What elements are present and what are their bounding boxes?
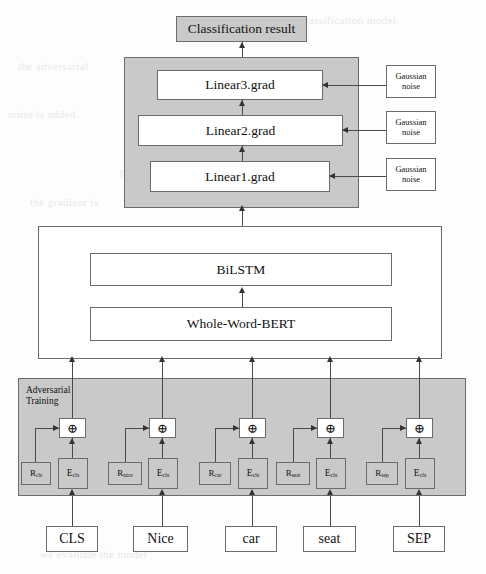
linear2-grad-label: Linear2.grad: [206, 123, 275, 138]
linear1-grad-label: Linear1.grad: [205, 169, 274, 184]
arrowhead-emb4-to-sum4: [327, 438, 333, 444]
token-node-4[interactable]: seat: [303, 526, 356, 552]
background-bleed-text: the adversarial: [18, 60, 88, 72]
perturbation-label-2: Rnice: [117, 468, 132, 478]
connector-pert2-riser: [125, 428, 126, 463]
sum-operator-symbol-4: ⊕: [325, 422, 336, 435]
gaussian-noise-node-1[interactable]: Gaussian noise: [386, 158, 436, 191]
arrowhead-encoder-to-grad: [239, 205, 245, 211]
token-node-5[interactable]: SEP: [393, 526, 445, 552]
connector-noise2-to-linear2: [343, 130, 386, 131]
gaussian-noise-node-3[interactable]: Gaussian noise: [386, 65, 436, 98]
arrowhead-bert-to-bilstm: [239, 287, 245, 293]
perturbation-node-3[interactable]: Rcar: [199, 462, 231, 485]
embedding-node-1[interactable]: Ecls: [58, 458, 88, 489]
arrowhead-token3-to-emb3: [249, 489, 255, 495]
gaussian-noise-label-3: Gaussian noise: [395, 72, 426, 91]
embedding-label-4: Ecls: [325, 468, 337, 479]
connector-token4-to-emb4: [330, 496, 331, 526]
token-label-1: CLS: [59, 531, 85, 547]
arrowhead-noise3-to-linear3: [322, 82, 328, 88]
arrowhead-linear1-to-linear2: [239, 146, 245, 152]
arrowhead-pert2-to-sum2: [143, 425, 149, 431]
connector-pert4-riser: [293, 428, 294, 463]
perturbation-label-4: Rseat: [286, 468, 301, 478]
token-node-1[interactable]: CLS: [46, 526, 98, 552]
embedding-label-1: Ecls: [67, 468, 79, 479]
sum-operator-symbol-3: ⊕: [247, 422, 258, 435]
arrowhead-pert3-to-sum3: [233, 425, 239, 431]
connector-pert3-riser: [215, 428, 216, 463]
connector-sum4-to-encoder: [330, 359, 331, 420]
perturbation-node-2[interactable]: Rnice: [108, 462, 142, 485]
token-node-2[interactable]: Nice: [133, 526, 188, 552]
arrowhead-sum5-to-encoder: [416, 356, 422, 362]
arrowhead-sum2-to-encoder: [159, 356, 165, 362]
connector-token2-to-emb2: [162, 496, 163, 526]
embedding-label-3: Ecls: [247, 468, 259, 479]
linear1-grad-node[interactable]: Linear1.grad: [150, 161, 330, 192]
perturbation-node-1[interactable]: Rcls: [21, 462, 51, 485]
embedding-label-2: Ecls: [157, 468, 169, 479]
sum-operator-node-5[interactable]: ⊕: [406, 418, 433, 438]
linear3-grad-node[interactable]: Linear3.grad: [157, 70, 323, 100]
classification-result-node[interactable]: Classification result: [176, 16, 307, 42]
background-bleed-text: noise is added: [8, 108, 76, 120]
embedding-label-5: Ecls: [414, 468, 426, 479]
arrowhead-emb1-to-sum1: [69, 438, 75, 444]
embedding-node-3[interactable]: Ecls: [238, 458, 268, 489]
arrowhead-emb5-to-sum5: [416, 438, 422, 444]
adversarial-training-label: Adversarial Training: [26, 385, 70, 407]
bilstm-node[interactable]: BiLSTM: [90, 253, 392, 286]
arrowhead-sum4-to-encoder: [327, 356, 333, 362]
background-bleed-text: classification model: [300, 14, 396, 26]
connector-sum5-to-encoder: [419, 359, 420, 420]
sum-operator-symbol-5: ⊕: [414, 422, 425, 435]
bilstm-label: BiLSTM: [217, 262, 266, 277]
connector-pert5-riser: [382, 428, 383, 463]
gaussian-noise-node-2[interactable]: Gaussian noise: [386, 111, 436, 144]
token-label-3: car: [242, 531, 259, 547]
sum-operator-node-4[interactable]: ⊕: [317, 418, 344, 438]
arrowhead-sum1-to-encoder: [69, 356, 75, 362]
arrowhead-linear2-to-linear3: [239, 100, 245, 106]
embedding-node-2[interactable]: Ecls: [148, 458, 178, 489]
arrowhead-token2-to-emb2: [159, 489, 165, 495]
perturbation-label-1: Rcls: [30, 468, 42, 478]
connector-noise1-to-linear1: [330, 176, 386, 177]
token-node-3[interactable]: car: [225, 526, 277, 552]
connector-pert1-riser: [35, 428, 36, 463]
sum-operator-node-2[interactable]: ⊕: [149, 418, 176, 438]
arrowhead-emb2-to-sum2: [159, 438, 165, 444]
classification-result-label: Classification result: [188, 21, 296, 36]
perturbation-node-4[interactable]: Rseat: [276, 462, 310, 485]
connector-token1-to-emb1: [72, 496, 73, 526]
gaussian-noise-label-1: Gaussian noise: [395, 165, 426, 184]
sum-operator-symbol-1: ⊕: [67, 422, 78, 435]
token-label-5: SEP: [407, 531, 431, 547]
linear2-grad-node[interactable]: Linear2.grad: [138, 115, 343, 146]
arrowhead-grad-to-output: [239, 42, 245, 48]
arrowhead-sum3-to-encoder: [249, 356, 255, 362]
connector-sum1-to-encoder: [72, 359, 73, 420]
diagram-canvas: classification model the adversarial noi…: [0, 0, 486, 574]
arrowhead-token5-to-emb5: [416, 489, 422, 495]
arrowhead-pert4-to-sum4: [311, 425, 317, 431]
arrowhead-pert1-to-sum1: [53, 425, 59, 431]
perturbation-node-5[interactable]: Rsep: [366, 462, 398, 485]
sum-operator-node-3[interactable]: ⊕: [239, 418, 266, 438]
perturbation-label-3: Rcar: [209, 468, 222, 478]
whole-word-bert-node[interactable]: Whole-Word-BERT: [90, 307, 392, 341]
perturbation-label-5: Rsep: [375, 468, 388, 478]
embedding-node-5[interactable]: Ecls: [405, 458, 435, 489]
sum-operator-symbol-2: ⊕: [157, 422, 168, 435]
connector-token3-to-emb3: [252, 496, 253, 526]
connector-noise3-to-linear3: [323, 85, 386, 86]
background-bleed-text: the gradient is: [30, 196, 98, 208]
sum-operator-node-1[interactable]: ⊕: [59, 418, 86, 438]
arrowhead-token1-to-emb1: [69, 489, 75, 495]
arrowhead-noise2-to-linear2: [342, 127, 348, 133]
connector-sum3-to-encoder: [252, 359, 253, 420]
connector-sum2-to-encoder: [162, 359, 163, 420]
embedding-node-4[interactable]: Ecls: [316, 458, 346, 489]
